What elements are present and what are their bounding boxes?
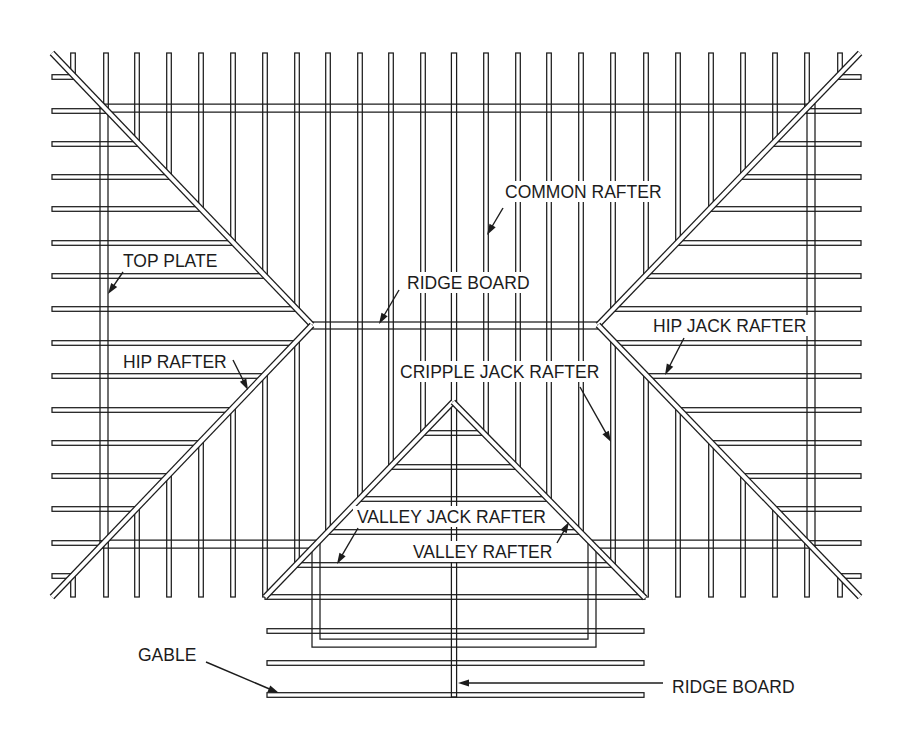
hip-jack-rafter: [808, 541, 861, 546]
ridge-board: [312, 322, 598, 329]
top-plate-callout: TOP PLATE: [108, 250, 221, 294]
hip-jack-rafter: [644, 375, 649, 597]
hip-jack-rafter: [805, 53, 810, 108]
hip-jack-rafter: [52, 307, 297, 312]
hip-jack-rafter: [741, 476, 746, 597]
common-rafter-label: COMMON RAFTER: [505, 182, 662, 202]
leader-line: [669, 338, 684, 367]
hip-jack-rafter: [680, 408, 861, 413]
hip-jack-rafter: [104, 53, 109, 109]
hip-jack-rafter: [52, 109, 107, 114]
hip-roof-framing-plan: COMMON RAFTERTOP PLATERIDGE BOARDHIP JAC…: [0, 0, 908, 742]
valley-jack-rafter-label: VALLEY JACK RAFTER: [357, 507, 546, 527]
hip-jack-rafter: [231, 408, 236, 597]
hip-jack-rafter: [167, 475, 172, 597]
arrowhead-icon: [458, 679, 469, 686]
leader-line: [342, 528, 358, 556]
arrowhead-icon: [560, 522, 569, 533]
hip-jack-rafter: [295, 341, 300, 564]
hip-jack-rafter: [773, 509, 778, 597]
hip-jack-rafter: [295, 53, 300, 309]
hip-jack-rafter: [805, 542, 810, 597]
valley-jack-rafter: [390, 465, 516, 470]
gable-label: GABLE: [138, 645, 196, 665]
hip-jack-rafter: [710, 207, 861, 212]
arrowhead-icon: [240, 379, 248, 390]
hip-jack-rafter: [709, 442, 714, 597]
cripple-jack-rafter-label: CRIPPLE JACK RAFTER: [400, 362, 599, 382]
hip-jack-rafter: [611, 341, 616, 566]
hip-jack-rafter: [709, 53, 714, 208]
hip-jack-rafter: [52, 207, 201, 212]
hip-jack-rafter: [52, 408, 231, 413]
arrowhead-icon: [267, 685, 279, 693]
common-cripple-jack-rafter: [579, 53, 584, 533]
valley-jack-rafter: [328, 530, 581, 535]
top-plate-label: TOP PLATE: [123, 251, 217, 271]
hip-jack-rafter: [773, 53, 778, 141]
valley-jack-rafter: [359, 497, 548, 502]
hip-jack-rafter: [775, 507, 861, 512]
hip-rafter-callout: HIP RAFTER: [119, 351, 248, 390]
hip-jack-rafter: [135, 53, 140, 142]
hip-jack-rafter: [644, 53, 649, 275]
hip-jack-rafter: [613, 307, 861, 312]
common-cripple-jack-rafter: [389, 53, 394, 466]
hip-jack-rafter: [52, 175, 171, 180]
hip-rafter-upper-left: [52, 53, 312, 325]
hip-jack-rafter: [677, 241, 861, 246]
gable-callout: GABLE: [134, 644, 279, 693]
hip-jack-rafter: [645, 274, 861, 279]
hip-jack-rafter: [52, 507, 136, 512]
hip-jack-rafter: [52, 541, 104, 546]
common-rafter-callout: COMMON RAFTER: [487, 181, 666, 235]
hip-jack-rafter-label: HIP JACK RAFTER: [653, 316, 806, 336]
leader-line: [557, 530, 565, 543]
common-cripple-jack-rafter: [516, 53, 521, 468]
common-cripple-jack-rafter: [326, 53, 331, 532]
hip-jack-rafter: [263, 374, 268, 597]
hip-jack-rafter: [712, 441, 861, 446]
valley-rafter-right: [453, 402, 645, 598]
hip-jack-rafter: [104, 541, 109, 597]
hip-jack-rafter: [52, 241, 234, 246]
ridge-board-top-label: RIDGE BOARD: [407, 273, 530, 293]
leader-line: [206, 662, 271, 689]
leader-line: [492, 208, 503, 227]
hip-jack-rafter: [52, 474, 168, 479]
ridge-board-bottom-callout: RIDGE BOARD: [458, 676, 799, 697]
hip-jack-rafter: [772, 142, 861, 147]
valley-rafter-label: VALLEY RAFTER: [413, 542, 552, 562]
valley-rafter-callout: VALLEY RAFTER: [409, 522, 569, 562]
arrowhead-icon: [602, 431, 611, 442]
gable-rafter: [267, 661, 644, 666]
hip-jack-rafter: [199, 441, 204, 597]
hip-jack-rafter: [615, 341, 861, 346]
hip-jack-rafter: [52, 441, 199, 446]
hip-jack-rafter: [52, 142, 139, 147]
common-cripple-jack-rafter: [358, 53, 363, 498]
hip-jack-rafter: [743, 474, 861, 479]
common-cripple-jack-rafter: [547, 53, 552, 500]
hip-jack-rafter: [52, 274, 265, 279]
leader-line: [580, 387, 607, 434]
hip-jack-rafter: [199, 53, 204, 209]
hip-jack-rafter: [741, 53, 746, 174]
hip-jack-rafter: [52, 374, 263, 379]
ridge-board-bottom-label: RIDGE BOARD: [672, 677, 795, 697]
hip-rafter-label: HIP RAFTER: [123, 352, 227, 372]
roof-framing-diagram: COMMON RAFTERTOP PLATERIDGE BOARDHIP JAC…: [0, 0, 908, 742]
arrowhead-icon: [108, 283, 117, 294]
hip-jack-rafter: [263, 53, 268, 276]
hip-jack-rafter: [231, 53, 236, 242]
hip-jack-rafter: [52, 341, 295, 346]
leader-line: [384, 290, 399, 316]
hip-jack-rafter: [676, 53, 681, 242]
valley-jack-rafter: [423, 431, 483, 436]
hip-jack-rafter: [676, 408, 681, 597]
hip-jack-rafter: [741, 175, 861, 180]
hip-rafter-lower-right: [598, 325, 860, 597]
hip-jack-rafter: [135, 508, 140, 597]
hip-jack-rafter: [647, 374, 861, 379]
hip-jack-rafter: [167, 53, 172, 175]
